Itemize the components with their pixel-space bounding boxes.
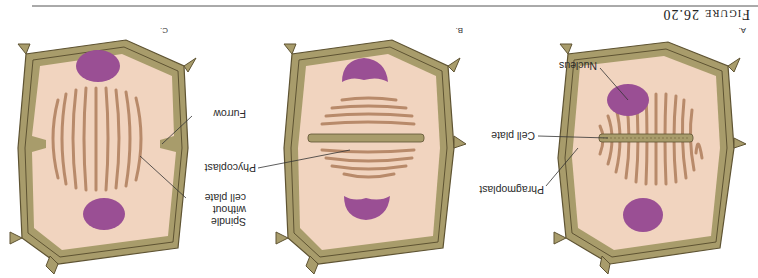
label-cell-plate: Cell plate bbox=[491, 130, 535, 142]
panel-label-c: C. bbox=[160, 26, 168, 35]
cell-b bbox=[276, 40, 466, 274]
nucleus-c-lower bbox=[83, 198, 125, 230]
label-spindle-1: Spindle bbox=[211, 216, 246, 228]
figure-title: FIGURE26.20 bbox=[663, 7, 750, 22]
rotated-figure: FIGURE26.20 A. B. C. bbox=[0, 0, 758, 278]
cell-c bbox=[10, 40, 196, 274]
cell-a bbox=[554, 42, 746, 274]
cell-plate-b bbox=[308, 134, 424, 142]
label-furrow: Furrow bbox=[213, 108, 246, 120]
nucleus-a-lower bbox=[623, 198, 663, 232]
label-phragmoplast: Phragmoplast bbox=[479, 184, 544, 196]
panel-label-b: B. bbox=[455, 26, 463, 35]
nucleus-c-upper bbox=[76, 50, 120, 82]
label-nucleus: Nucleus bbox=[559, 60, 597, 72]
label-spindle-3: cell plate bbox=[204, 192, 246, 204]
label-spindle-2: without bbox=[213, 204, 247, 216]
panel-label-a: A. bbox=[738, 26, 746, 35]
figure-canvas: FIGURE26.20 A. B. C. bbox=[0, 0, 758, 278]
label-phycoplast: Phycoplast bbox=[205, 162, 256, 174]
